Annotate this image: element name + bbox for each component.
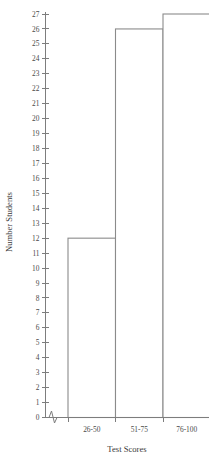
y-tick-label: 26 (32, 25, 40, 34)
chart-canvas: 2726252423222120191817161514131211109876… (0, 0, 209, 455)
y-tick-label: 3 (36, 368, 40, 377)
y-tick-label: 10 (32, 264, 40, 273)
y-tick-label: 17 (32, 159, 40, 168)
y-tick-label: 1 (36, 398, 40, 407)
bar-chart: ­­­ ­­­­­ ­­­­ 2726252423222120191817161… (0, 0, 209, 455)
x-category-label: 76-100 (176, 425, 197, 434)
y-tick-label: 24 (32, 54, 40, 63)
y-tick-label: 12 (32, 234, 40, 243)
x-axis-title: Test Scores (107, 444, 147, 454)
y-tick-label: 9 (36, 279, 40, 288)
x-axis-category-labels: 26-5051-7576-100 (83, 425, 197, 434)
y-tick-label: 25 (32, 39, 40, 48)
y-tick-label: 5 (36, 338, 40, 347)
y-tick-label: 6 (36, 323, 40, 332)
y-tick-label: 7 (36, 308, 40, 317)
y-tick-label: 4 (36, 353, 40, 362)
y-tick-label: 16 (32, 174, 40, 183)
x-axis-ticks (68, 418, 163, 423)
bar-group (68, 14, 209, 418)
y-tick-label: 14 (32, 204, 40, 213)
y-tick-label: 19 (32, 129, 40, 138)
bar (68, 238, 116, 417)
y-tick-label: 23 (32, 69, 40, 78)
y-tick-label: 0 (36, 413, 40, 422)
y-axis-title: Number Students (4, 191, 14, 252)
bar (116, 29, 164, 418)
y-tick-label: 13 (32, 219, 40, 228)
x-category-label: 51-75 (131, 425, 149, 434)
y-tick-label: 22 (32, 84, 40, 93)
bar (163, 14, 209, 418)
y-tick-label: 8 (36, 294, 40, 303)
y-tick-label: 27 (32, 10, 40, 19)
y-tick-label: 2 (36, 383, 40, 392)
y-tick-label: 21 (32, 99, 40, 108)
y-tick-label: 15 (32, 189, 40, 198)
y-tick-label: 20 (32, 114, 40, 123)
y-tick-label: 18 (32, 144, 40, 153)
axis-break-icon (46, 411, 60, 423)
y-tick-label: 11 (32, 249, 39, 258)
x-category-label: 26-50 (83, 425, 101, 434)
y-axis-tick-labels: 2726252423222120191817161514131211109876… (32, 10, 40, 423)
